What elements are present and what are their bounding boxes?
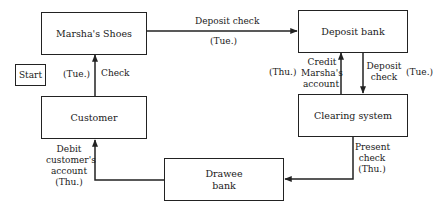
node-label: Start bbox=[19, 69, 42, 81]
edge-label-credit-line2: Marsha's bbox=[301, 68, 341, 79]
node-clearing-system: Clearing system bbox=[298, 94, 408, 137]
edge-label-check-day: (Tue.) bbox=[63, 69, 90, 80]
edge-label-check: Check bbox=[101, 68, 130, 79]
node-label: Clearing system bbox=[314, 110, 392, 122]
edge-label-debit-line1: Debit bbox=[46, 144, 92, 155]
node-label-line1: Drawee bbox=[205, 168, 242, 180]
arrow-clearing-to-drawee bbox=[285, 137, 353, 179]
node-start: Start bbox=[15, 64, 46, 86]
node-drawee-bank: Drawee bank bbox=[164, 158, 284, 201]
arrow-drawee-to-customer bbox=[95, 140, 164, 180]
node-label-line2: bank bbox=[212, 180, 236, 192]
edge-label-debit-line3: account bbox=[46, 166, 92, 177]
edge-label-deposit-line2: check bbox=[366, 72, 402, 83]
edge-label-debit-day: (Thu.) bbox=[46, 177, 92, 188]
node-marshas-shoes: Marsha's Shoes bbox=[41, 12, 147, 55]
node-label: Marsha's Shoes bbox=[56, 28, 132, 40]
edge-label-deposit-line1: Deposit bbox=[366, 61, 402, 72]
edge-label-credit-day: (Thu.) bbox=[269, 67, 296, 78]
edge-label-present-day: (Thu.) bbox=[355, 164, 389, 175]
edge-label-credit-line1: Credit bbox=[306, 57, 338, 68]
edge-label-present-line1: Present bbox=[355, 142, 389, 153]
edge-label-credit-line3: account bbox=[302, 79, 340, 90]
edge-label-deposit-check: Deposit check bbox=[195, 16, 259, 27]
edge-label-deposit-check-day: (Tue.) bbox=[210, 36, 237, 47]
node-label: Deposit bank bbox=[321, 26, 384, 38]
edge-label-present-line2: check bbox=[355, 153, 389, 164]
check-clearing-diagram: Marsha's Shoes Deposit bank Customer Cle… bbox=[0, 0, 448, 218]
edge-label-deposit-day: (Tue.) bbox=[406, 67, 433, 78]
node-customer: Customer bbox=[41, 96, 147, 139]
edge-label-debit-line2: customer's bbox=[46, 155, 92, 166]
node-label: Customer bbox=[71, 112, 118, 124]
node-deposit-bank: Deposit bank bbox=[298, 10, 408, 53]
